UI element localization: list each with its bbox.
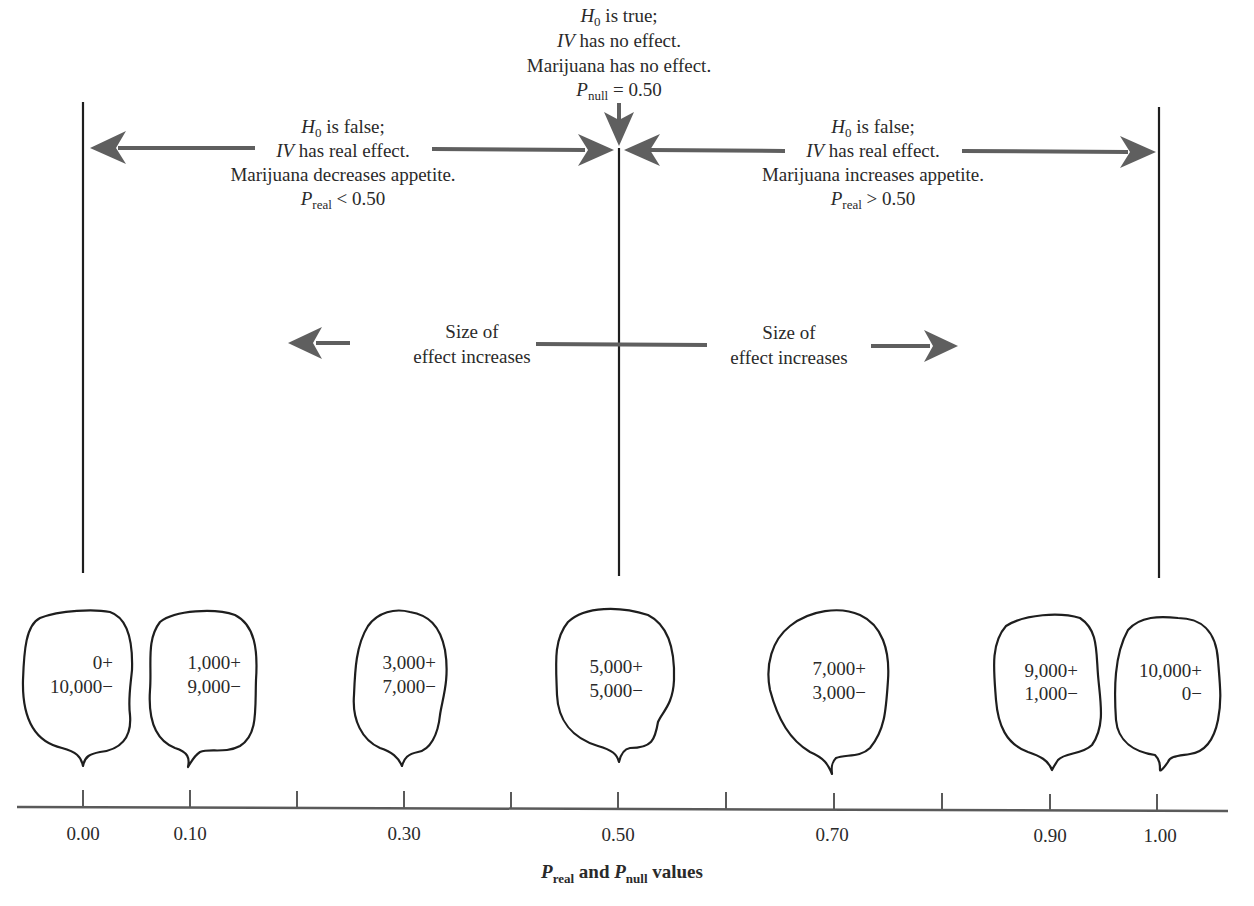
x-axis [17,790,1228,811]
bubble-4: 7,000+ 3,000− [768,610,888,774]
x-axis-title: Preal and Pnull values [540,861,703,886]
svg-text:Preal > 0.50: Preal > 0.50 [830,188,916,212]
svg-text:Pnull = 0.50: Pnull = 0.50 [575,79,661,103]
bubble-3: 5,000+ 5,000− [556,609,674,762]
svg-text:1,000+: 1,000+ [188,652,241,673]
svg-text:0+: 0+ [93,652,113,673]
svg-text:Preal < 0.50: Preal < 0.50 [300,188,386,212]
svg-text:Size of: Size of [445,321,499,342]
down-arrow-icon [604,103,634,146]
svg-text:H0 is true;: H0 is true; [579,5,657,29]
bubble-1: 1,000+ 9,000− [150,611,257,767]
svg-text:effect increases: effect increases [413,346,530,367]
svg-text:H0 is false;: H0 is false; [830,116,915,140]
svg-text:7,000−: 7,000− [383,676,436,697]
svg-text:Marijuana increases appetite.: Marijuana increases appetite. [762,164,984,185]
svg-text:3,000−: 3,000− [813,682,866,703]
svg-text:0.10: 0.10 [173,823,206,844]
x-axis-tick-labels: 0.00 0.10 0.30 0.50 0.70 0.90 1.00 [66,823,1176,846]
bubble-2: 3,000+ 7,000− [354,611,447,766]
svg-text:10,000−: 10,000− [50,676,113,697]
right-region-label: H0 is false; IV has real effect. Marijua… [762,116,984,212]
bubble-5: 9,000+ 1,000− [994,615,1101,770]
diagram-canvas: H0 is true; IV has no effect. Marijuana … [0,0,1254,906]
svg-text:1,000−: 1,000− [1025,683,1078,704]
svg-text:5,000−: 5,000− [590,680,643,701]
bubble-0: 0+ 10,000− [23,610,132,766]
svg-text:0.70: 0.70 [815,824,848,845]
svg-text:IV has no effect.: IV has no effect. [556,30,681,51]
svg-text:7,000+: 7,000+ [813,658,866,679]
svg-text:9,000−: 9,000− [188,676,241,697]
left-region-label: H0 is false; IV has real effect. Marijua… [230,116,455,212]
svg-text:0.50: 0.50 [601,824,634,845]
center-label: H0 is true; IV has no effect. Marijuana … [527,5,711,103]
svg-text:0.90: 0.90 [1033,825,1066,846]
left-effect-label: Size of effect increases [413,321,530,367]
effect-size-arrows [288,327,958,362]
bubble-6: 10,000+ 0− [1115,617,1220,770]
svg-text:0.00: 0.00 [66,823,99,844]
svg-text:9,000+: 9,000+ [1025,660,1078,681]
svg-text:H0 is false;: H0 is false; [300,116,385,140]
svg-text:0−: 0− [1182,683,1202,704]
svg-text:Marijuana has no effect.: Marijuana has no effect. [527,55,711,76]
right-effect-label: Size of effect increases [730,322,847,368]
svg-text:IV has real effect.: IV has real effect. [275,140,410,161]
svg-text:0.30: 0.30 [387,823,420,844]
svg-text:10,000+: 10,000+ [1139,660,1202,681]
svg-text:1.00: 1.00 [1143,825,1176,846]
svg-text:IV has real effect.: IV has real effect. [805,140,940,161]
svg-text:Size of: Size of [762,322,816,343]
svg-text:effect increases: effect increases [730,347,847,368]
svg-text:Marijuana decreases appetite.: Marijuana decreases appetite. [230,164,455,185]
svg-text:3,000+: 3,000+ [383,652,436,673]
svg-text:5,000+: 5,000+ [590,656,643,677]
